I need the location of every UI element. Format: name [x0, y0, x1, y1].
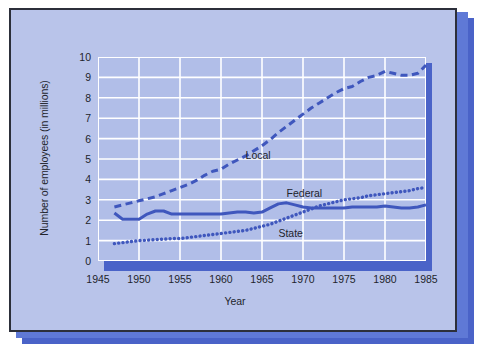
y-tick-label: 6	[69, 134, 91, 145]
x-axis-title: Year	[11, 295, 459, 307]
x-tick-label: 1980	[365, 274, 405, 285]
y-tick-label: 5	[69, 154, 91, 165]
x-tick-label: 1950	[119, 274, 159, 285]
series-label-federal: Federal	[287, 187, 323, 199]
x-tick-label: 1975	[324, 274, 364, 285]
x-tick-label: 1960	[201, 274, 241, 285]
series-label-state: State	[278, 227, 303, 239]
y-tick-label: 3	[69, 195, 91, 206]
y-tick-label: 10	[69, 52, 91, 63]
x-tick-label: 1955	[160, 274, 200, 285]
y-tick-label: 9	[69, 72, 91, 83]
series-label-local: Local	[246, 149, 271, 161]
y-tick-label: 8	[69, 93, 91, 104]
x-tick-label: 1970	[283, 274, 323, 285]
y-axis-title: Number of employees (in millions)	[38, 63, 50, 253]
y-tick-label: 2	[69, 215, 91, 226]
x-tick-label: 1945	[78, 274, 118, 285]
x-tick-label: 1985	[406, 274, 446, 285]
y-tick-label: 0	[69, 256, 91, 267]
y-tick-label: 7	[69, 113, 91, 124]
y-tick-label: 4	[69, 174, 91, 185]
series-line-local	[114, 65, 426, 207]
chart-card: Number of employees (in millions) 012345…	[9, 8, 457, 332]
x-tick-label: 1965	[242, 274, 282, 285]
y-tick-label: 1	[69, 236, 91, 247]
series-line-federal	[114, 203, 426, 219]
